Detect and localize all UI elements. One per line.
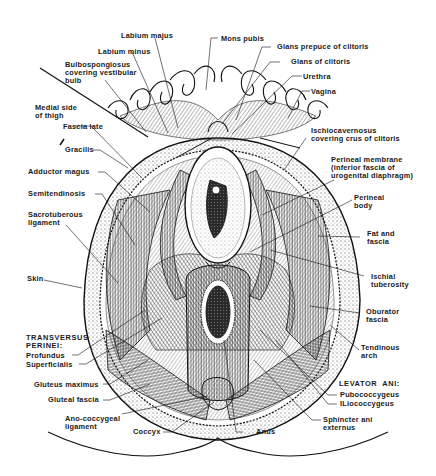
- label-ano-coccygeal: Ano-coccygeal ligament: [65, 415, 120, 431]
- label-obturator-fascia: Oburator fascia: [366, 308, 399, 324]
- label-gluteus-maximus: Gluteus maximus: [34, 381, 99, 389]
- label-iliococcygeus: ILiococcygeus: [340, 400, 394, 408]
- label-bulbospongiosus: Bulbospongiosus covering vestibular bulb: [65, 61, 137, 85]
- label-perineal-body: Perineal body: [354, 194, 384, 210]
- label-perineal-membrane: Perineal membrane (inferior fascia of ur…: [331, 156, 413, 180]
- label-levator-ani: LEVATOR ANI:: [339, 380, 400, 388]
- label-anus: Anus: [256, 428, 275, 436]
- label-superficialis: Superficialis: [26, 361, 73, 369]
- label-sphincter-ani: Sphincter ani externus: [323, 416, 372, 432]
- label-urethra: Urethra: [303, 73, 331, 81]
- label-labium-majus: Labium majus: [121, 32, 173, 40]
- label-adductor-magus: Adductor magus: [28, 168, 90, 176]
- label-ischiocavernosus: Ischiocavernosus covering crus of clitor…: [311, 127, 400, 143]
- label-mons-pubis: Mons pubis: [221, 35, 264, 43]
- label-ischial-tuberosity: Ischial tuberosity: [371, 273, 409, 289]
- label-skin: Skin: [27, 275, 43, 283]
- label-coccyx: Coccyx: [133, 428, 161, 436]
- perineum-diagram: Labium majus Mons pubis Labium minus Gla…: [0, 0, 436, 476]
- label-sacrotuberous: Sacrotuberous ligament: [28, 211, 83, 227]
- label-fat-fascia: Fat and fascia: [367, 230, 395, 246]
- label-fascia-late: Fascia late: [63, 123, 103, 131]
- label-tendinous-arch: Tendinous arch: [361, 344, 400, 360]
- label-pubococcygeus: Pubococcygeus: [340, 391, 399, 399]
- label-profundus: Profundus: [26, 352, 65, 360]
- label-gracilis: Gracilis: [65, 146, 94, 154]
- label-glans-clitoris: Glans of clitoris: [291, 58, 350, 66]
- label-gluteal-fascia: Gluteal fascia: [48, 396, 99, 404]
- label-medial-thigh: Medial side of thigh: [35, 104, 77, 120]
- label-semitendinosis: Semitendinosis: [28, 190, 85, 198]
- label-transversus-perinei: TRANSVERSUS PERINEI:: [26, 334, 88, 350]
- label-vagina: Vagina: [311, 88, 336, 96]
- label-labium-minus: Labium minus: [98, 48, 151, 56]
- label-glans-prepuce: Glans prepuce of clitoris: [277, 43, 369, 51]
